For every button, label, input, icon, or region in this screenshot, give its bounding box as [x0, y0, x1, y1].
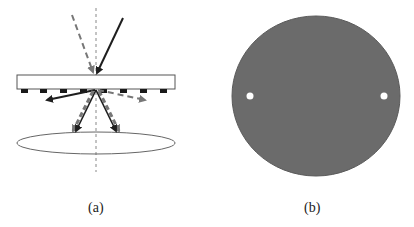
diffracted-beam-down-left-solid — [76, 90, 96, 131]
plate — [17, 75, 175, 89]
panel-a-caption: (a) — [88, 200, 104, 216]
incident-beam-solid — [97, 18, 123, 73]
gray-disc — [232, 16, 400, 176]
incident-beam-dashed — [72, 15, 93, 72]
diffracted-beam-down-right-solid — [96, 90, 116, 131]
panel-a-diagram — [17, 8, 175, 172]
panel-b-caption: (b) — [304, 200, 320, 216]
figure-canvas — [0, 0, 414, 227]
panel-b-diagram — [232, 16, 400, 176]
diffracted-beam-down-right-dashed — [99, 91, 119, 131]
diffracted-beam-down-left-dashed — [73, 91, 93, 131]
spot-right — [381, 93, 388, 100]
spot-left — [247, 93, 254, 100]
